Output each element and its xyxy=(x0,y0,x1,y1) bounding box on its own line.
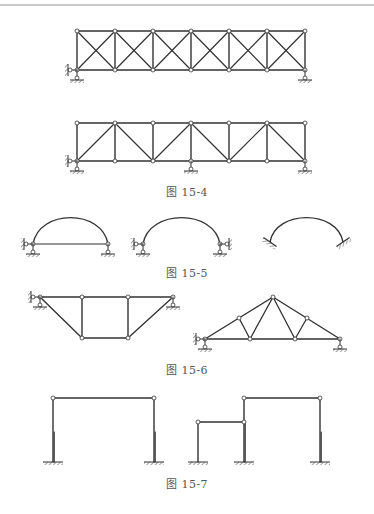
web-member xyxy=(295,318,307,339)
hinge-node xyxy=(242,396,246,400)
ground xyxy=(198,349,212,352)
ground xyxy=(33,307,47,310)
roller-support-icon xyxy=(298,70,312,83)
hinge-node xyxy=(248,337,252,341)
portal-frame xyxy=(43,396,164,465)
horizontal-link-icon xyxy=(193,333,205,345)
hinge-node xyxy=(227,159,231,163)
hinge-node xyxy=(196,337,200,341)
diagonal-member xyxy=(115,123,153,161)
hinge-node xyxy=(303,167,307,171)
hinge-node xyxy=(75,29,79,33)
hinge-node xyxy=(126,295,130,299)
hinge-node xyxy=(242,420,246,424)
roller-support-icon xyxy=(136,244,150,257)
ground xyxy=(310,462,330,465)
hinge-node xyxy=(24,242,28,246)
hinge-node xyxy=(227,68,231,72)
caption-figure-15-6: 图 15-6 xyxy=(166,361,208,377)
hinge-node xyxy=(126,336,130,340)
structural-diagrams xyxy=(0,0,374,514)
wall xyxy=(229,238,232,250)
hinge-node xyxy=(227,29,231,33)
hinge-node xyxy=(303,29,307,33)
tied-arch xyxy=(21,218,115,257)
hinge-node xyxy=(31,295,35,299)
caption-figure-15-7: 图 15-7 xyxy=(166,475,208,491)
horizontal-link-icon xyxy=(65,64,77,76)
fixed-arch xyxy=(261,218,352,250)
hinge-node xyxy=(141,250,145,254)
hinge-node xyxy=(303,76,307,80)
ground xyxy=(188,462,208,465)
arch-rib xyxy=(33,218,108,244)
roller-support-icon xyxy=(70,161,84,174)
wall xyxy=(65,155,68,167)
hinge-node xyxy=(189,29,193,33)
hinge-node xyxy=(68,159,72,163)
hinge-node xyxy=(265,68,269,72)
hinge-node xyxy=(106,250,110,254)
hinge-node xyxy=(227,121,231,125)
horizontal-link-icon xyxy=(65,155,77,167)
hinge-node xyxy=(225,242,229,246)
hinge-node xyxy=(237,316,241,320)
ground xyxy=(166,307,180,310)
roller-support-icon xyxy=(333,339,347,352)
ground xyxy=(43,462,63,465)
hinge-node xyxy=(80,295,84,299)
hinge-node xyxy=(113,29,117,33)
fixed-support-icon xyxy=(336,237,351,249)
wall xyxy=(21,238,24,250)
ground xyxy=(298,80,312,83)
hinge-node xyxy=(75,121,79,125)
roller-support-icon xyxy=(33,297,47,310)
hinge-node xyxy=(75,167,79,171)
hinge-node xyxy=(151,159,155,163)
hinge-node xyxy=(265,29,269,33)
hinge-node xyxy=(218,250,222,254)
caption-figure-15-4: 图 15-4 xyxy=(166,183,208,199)
diagonal-member xyxy=(153,123,191,161)
hinge-node xyxy=(189,167,193,171)
hinge-node xyxy=(203,345,207,349)
roller-support-icon xyxy=(298,161,312,174)
arch-rib xyxy=(270,218,343,242)
roller-support-icon xyxy=(101,244,115,257)
hinge-node xyxy=(196,420,200,424)
caption-figure-15-5: 图 15-5 xyxy=(166,264,208,280)
ground xyxy=(184,171,198,174)
ground xyxy=(333,349,347,352)
roof-truss xyxy=(193,295,347,352)
diagonal-member xyxy=(128,297,173,338)
hinge-node xyxy=(80,336,84,340)
hinge-node xyxy=(265,121,269,125)
hinge-node xyxy=(189,121,193,125)
diagonal-member xyxy=(77,123,115,161)
arch-rib xyxy=(143,218,220,244)
hinge-node xyxy=(51,396,55,400)
hinge-node xyxy=(151,29,155,33)
hinge-node xyxy=(31,250,35,254)
ground xyxy=(298,171,312,174)
roller-support-icon xyxy=(213,244,227,257)
web-member xyxy=(239,318,250,339)
hinge-node xyxy=(38,303,42,307)
inverted-truss xyxy=(28,291,180,340)
horizontal-link-icon xyxy=(131,238,143,250)
diagonal-member xyxy=(40,297,82,338)
diagonal-member xyxy=(229,123,267,161)
roller-support-icon xyxy=(70,70,84,83)
truss xyxy=(65,121,312,174)
ground xyxy=(136,254,150,257)
hinge-node xyxy=(68,68,72,72)
figure-15-6 xyxy=(28,291,347,352)
figure-15-5 xyxy=(21,218,352,257)
roller-support-icon xyxy=(198,339,212,352)
hinge-node xyxy=(189,68,193,72)
roller-support-icon xyxy=(26,244,40,257)
hinge-node xyxy=(75,76,79,80)
wall xyxy=(193,333,196,345)
roller-support-icon xyxy=(184,161,198,174)
figure-15-4 xyxy=(65,29,312,174)
